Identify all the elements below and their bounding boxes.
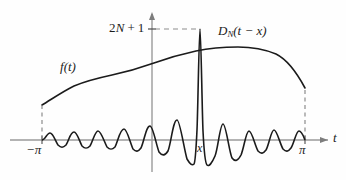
y-axis [148, 12, 156, 172]
x-tick-label-positive-pi: π [299, 143, 306, 156]
peak-height-one: 1 [138, 20, 145, 35]
peak-height-symbol: N [116, 20, 125, 35]
peak-height-coefficient: 2 [109, 20, 116, 35]
y-axis-arrowhead [149, 12, 155, 20]
x-tick-label-negative-pi: −π [26, 143, 41, 156]
peak-height-plus: + [127, 20, 135, 35]
function-argument: (t) [64, 59, 76, 74]
center-point-label-x: x [197, 142, 202, 154]
function-curve-f-of-t [42, 47, 305, 105]
peak-height-label: 2N + 1 [109, 21, 144, 34]
function-curve-label: f(t) [60, 60, 76, 73]
dirichlet-kernel-figure: 2N + 1 DN(t − x) f(t) −π π x t [0, 0, 346, 180]
plot-canvas [0, 0, 346, 180]
kernel-curve-label: DN(t − x) [218, 24, 267, 39]
kernel-argument: (t − x) [233, 23, 266, 38]
dirichlet-kernel-curve [42, 29, 305, 166]
kernel-base-symbol: D [218, 23, 227, 38]
x-axis-arrowhead [320, 137, 328, 143]
x-axis-label-t: t [333, 131, 337, 144]
